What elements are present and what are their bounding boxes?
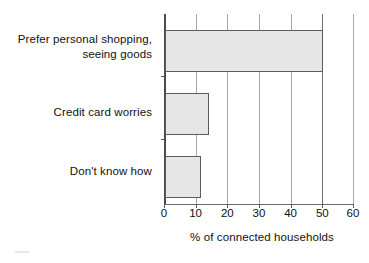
x-tick-label-30: 30	[253, 206, 266, 220]
gridline-60	[353, 14, 354, 204]
plot-area	[164, 14, 354, 204]
x-tick-label-10: 10	[189, 206, 202, 220]
category-label-prefer-personal-shopping: Prefer personal shopping, seeing goods	[0, 32, 152, 61]
bar-chart-figure: Prefer personal shopping, seeing goods C…	[0, 0, 369, 263]
x-tick-label-group: 0 10 20 30 40 50 60	[164, 206, 364, 222]
x-tick-label-20: 20	[221, 206, 234, 220]
bar-prefer-personal-shopping	[165, 30, 323, 72]
x-axis-title: % of connected households	[164, 230, 360, 244]
bar-dont-know-how	[165, 156, 201, 198]
corner-artifact	[15, 251, 29, 253]
x-tick-label-50: 50	[316, 206, 329, 220]
y-tick-2	[161, 139, 165, 140]
category-label-group: Prefer personal shopping, seeing goods C…	[0, 14, 158, 204]
x-tick-label-60: 60	[347, 206, 360, 220]
x-tick-label-0: 0	[161, 206, 167, 220]
y-tick-1	[161, 76, 165, 77]
category-label-credit-card-worries: Credit card worries	[0, 105, 152, 120]
bar-credit-card-worries	[165, 93, 209, 135]
x-tick-label-40: 40	[284, 206, 297, 220]
category-label-dont-know-how: Don't know how	[0, 164, 152, 179]
